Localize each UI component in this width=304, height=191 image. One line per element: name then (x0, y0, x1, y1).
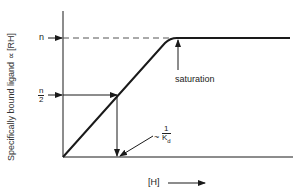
binding-curve (63, 38, 290, 157)
n-tick-label: n (39, 33, 44, 42)
half-n-denominator: 2 (38, 96, 44, 104)
half-n-tick-label: n 2 (38, 87, 44, 104)
kd-subscript: d (167, 138, 170, 144)
kd-denominator: Kd (162, 134, 171, 144)
saturation-label: saturation (175, 75, 215, 84)
kd-label: 1 Kd (162, 125, 171, 144)
x-axis-label: [H] (148, 178, 160, 187)
kd-approx-symbol: ~ (154, 133, 159, 142)
y-axis-label: Specifically bound ligand ∝ [RH] (6, 22, 16, 172)
binding-curve-diagram (0, 0, 304, 191)
kd-leader-arrow-icon (120, 136, 153, 156)
